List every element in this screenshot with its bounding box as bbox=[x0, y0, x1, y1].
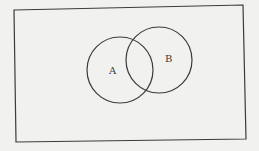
set-b-circle bbox=[126, 27, 192, 93]
set-a-circle bbox=[87, 37, 153, 103]
venn-diagram: A B bbox=[0, 0, 259, 151]
universe-rectangle bbox=[14, 5, 246, 142]
set-b-label: B bbox=[165, 53, 172, 64]
set-a-label: A bbox=[108, 65, 117, 76]
